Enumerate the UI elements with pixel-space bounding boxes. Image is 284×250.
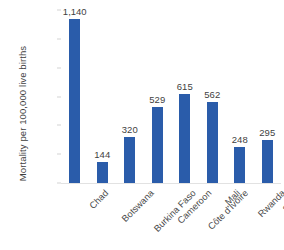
bar-value-label: 248: [232, 134, 248, 145]
bar[interactable]: [69, 19, 80, 183]
bar[interactable]: [262, 140, 273, 183]
bar[interactable]: [179, 94, 190, 183]
bar[interactable]: [97, 162, 108, 183]
y-tick-mark: [57, 67, 61, 68]
x-axis-line: [61, 183, 281, 184]
bar-value-label: 615: [177, 81, 193, 92]
bar-value-label: 320: [122, 124, 138, 135]
y-axis-title: Mortality per 100,000 live births: [17, 34, 28, 194]
x-tick-label: Chad: [87, 188, 110, 211]
bar-value-label: 529: [149, 94, 165, 105]
bar[interactable]: [124, 137, 135, 183]
y-tick-mark: [57, 38, 61, 39]
x-tick-label: Rwanda: [256, 188, 284, 219]
bar-value-label: 144: [94, 149, 110, 160]
bar-chart: Mortality per 100,000 live births 020040…: [0, 0, 284, 250]
y-tick-mark: [57, 96, 61, 97]
y-tick-mark: [57, 125, 61, 126]
bar-value-label: 1,140: [63, 6, 87, 17]
y-tick-mark: [57, 154, 61, 155]
y-tick-mark: [57, 10, 61, 11]
x-tick-label: Botswana: [120, 188, 156, 224]
y-tick-mark: [57, 183, 61, 184]
bar[interactable]: [152, 107, 163, 183]
bar-value-label: 562: [204, 89, 220, 100]
bar[interactable]: [207, 102, 218, 183]
plot-area: 02004006008001,0001,200 1,14014432052961…: [61, 10, 281, 183]
bar[interactable]: [234, 147, 245, 183]
bar-value-label: 295: [259, 127, 275, 138]
